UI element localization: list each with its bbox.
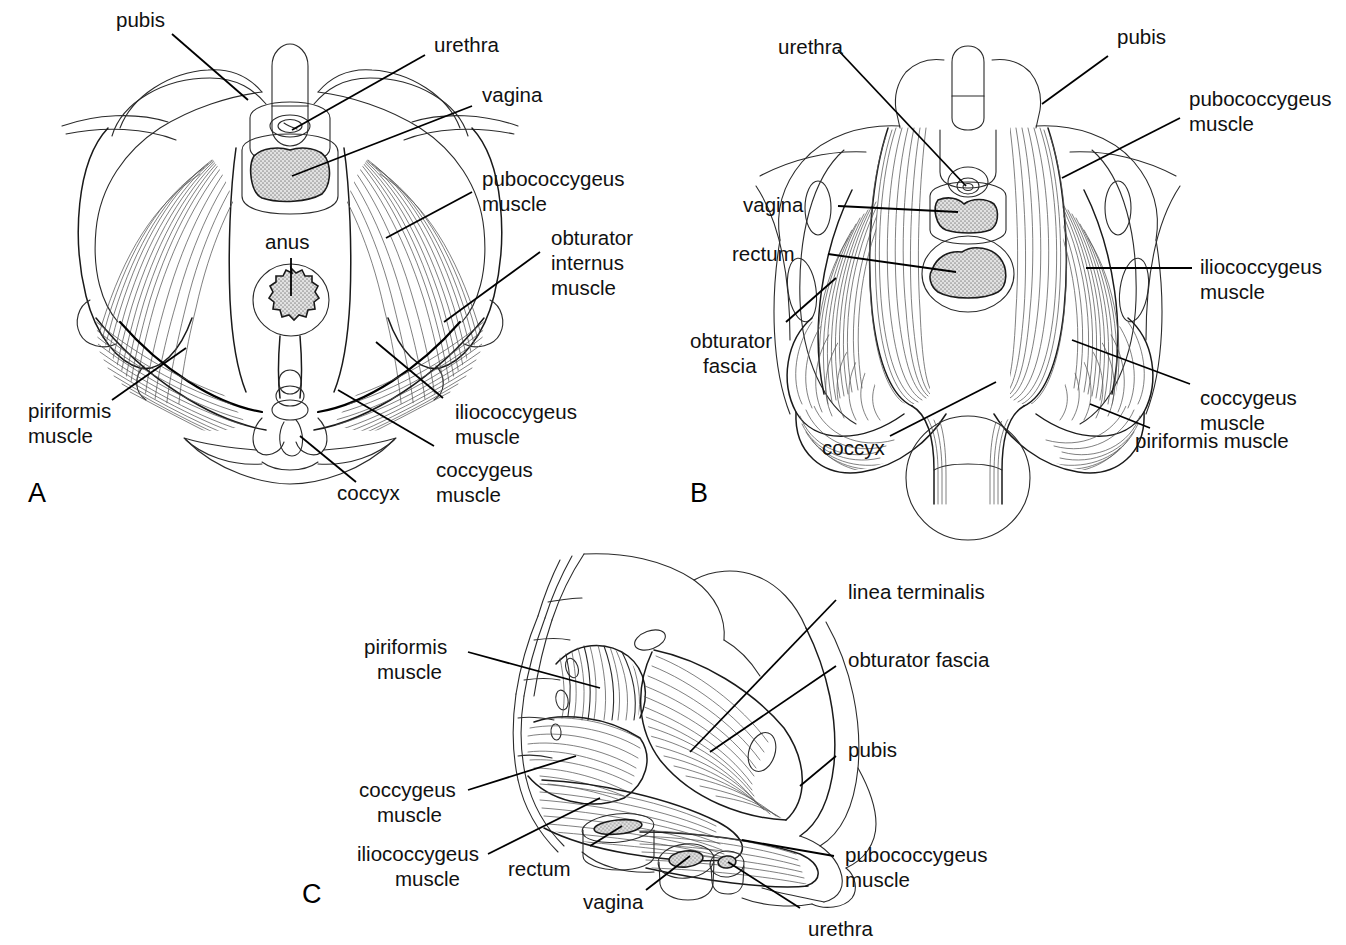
- label-obturator-a-l3: muscle: [551, 276, 616, 299]
- panel-letter-a: A: [28, 478, 46, 508]
- label-piriformis-c-l2: muscle: [377, 660, 442, 683]
- label-obturator-a-l2: internus: [551, 251, 624, 274]
- label-coccygeus-c-l2: muscle: [377, 803, 442, 826]
- label-iliococcygeus-a-l1: iliococcygeus: [455, 400, 577, 423]
- label-rectum-c: rectum: [508, 857, 571, 880]
- label-iliococcygeus-b-l1: iliococcygeus: [1200, 255, 1322, 278]
- label-pubis-a: pubis: [116, 8, 165, 31]
- label-coccygeus-a-l1: coccygeus: [436, 458, 533, 481]
- label-obturator-a-l1: obturator: [551, 226, 633, 249]
- label-piriformis-a-l2: muscle: [28, 424, 93, 447]
- label-linea-terminalis-c: linea terminalis: [848, 580, 985, 603]
- label-urethra-b: urethra: [778, 35, 844, 58]
- label-vagina-a: vagina: [482, 83, 543, 106]
- panel-letter-b: B: [690, 478, 708, 508]
- label-iliococcygeus-a-l2: muscle: [455, 425, 520, 448]
- label-piriformis-b: piriformis muscle: [1135, 429, 1289, 452]
- label-iliococcygeus-c-l1: iliococcygeus: [357, 842, 479, 865]
- label-urethra-a: urethra: [434, 33, 500, 56]
- label-obturator-fascia-b-l2: fascia: [703, 354, 757, 377]
- label-piriformis-c-l1: piriformis: [364, 635, 447, 658]
- label-piriformis-a-l1: piriformis: [28, 399, 111, 422]
- label-pubococcygeus-c-l2: muscle: [845, 868, 910, 891]
- label-coccyx-b: coccyx: [822, 436, 885, 459]
- label-obturator-fascia-b-l1: obturator: [690, 329, 772, 352]
- anatomical-figure: pubis urethra vagina pubococcygeus muscl…: [0, 0, 1346, 945]
- label-pubococcygeus-b-l2: muscle: [1189, 112, 1254, 135]
- vagina-lumen-a: [251, 148, 330, 201]
- label-coccygeus-c-l1: coccygeus: [359, 778, 456, 801]
- label-iliococcygeus-b-l2: muscle: [1200, 280, 1265, 303]
- vagina-lumen-b: [935, 198, 997, 233]
- panel-letter-c: C: [302, 879, 322, 909]
- label-iliococcygeus-c-l2: muscle: [395, 867, 460, 890]
- label-urethra-c: urethra: [808, 917, 874, 940]
- label-coccyx-a: coccyx: [337, 481, 400, 504]
- label-pubococcygeus-a-l2: muscle: [482, 192, 547, 215]
- label-pubococcygeus-c-l1: pubococcygeus: [845, 843, 987, 866]
- label-anus-a: anus: [265, 230, 309, 253]
- label-pubococcygeus-a-l1: pubococcygeus: [482, 167, 624, 190]
- label-pubis-b: pubis: [1117, 25, 1166, 48]
- label-vagina-c: vagina: [583, 890, 644, 913]
- label-vagina-b: vagina: [743, 193, 804, 216]
- label-pubis-c: pubis: [848, 738, 897, 761]
- label-rectum-b: rectum: [732, 242, 795, 265]
- label-coccygeus-a-l2: muscle: [436, 483, 501, 506]
- label-coccygeus-b-l1: coccygeus: [1200, 386, 1297, 409]
- label-obturator-fascia-c: obturator fascia: [848, 648, 990, 671]
- label-pubococcygeus-b-l1: pubococcygeus: [1189, 87, 1331, 110]
